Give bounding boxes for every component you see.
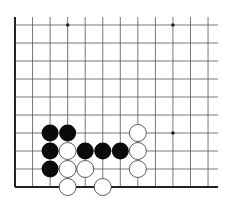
board-grid — [15, 17, 218, 187]
white-stone — [129, 125, 146, 142]
black-stone — [59, 125, 76, 142]
go-board — [0, 0, 233, 211]
white-stone — [94, 179, 111, 196]
black-stone — [42, 161, 59, 178]
stones-layer — [42, 125, 147, 196]
black-stone — [77, 143, 94, 160]
white-stone — [59, 161, 76, 178]
white-stone — [59, 143, 76, 160]
white-stone — [129, 143, 146, 160]
star-point — [171, 23, 175, 27]
white-stone — [59, 179, 76, 196]
white-stone — [129, 161, 146, 178]
black-stone — [42, 125, 59, 142]
black-stone — [112, 143, 129, 160]
star-point — [66, 23, 70, 27]
white-stone — [77, 161, 94, 178]
star-point — [171, 131, 175, 135]
black-stone — [42, 143, 59, 160]
black-stone — [94, 143, 111, 160]
